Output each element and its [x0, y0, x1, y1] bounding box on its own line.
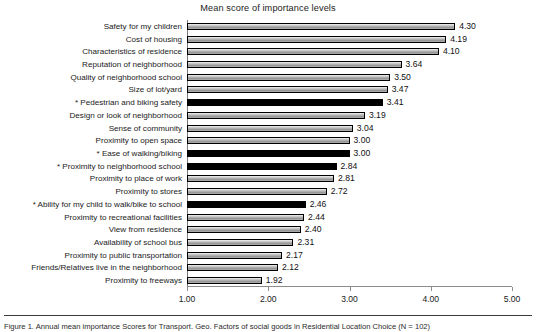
bar-value-label: 2.46: [310, 200, 327, 209]
bar-value-label: 2.40: [305, 225, 322, 234]
bar: [187, 252, 282, 259]
bar-value-label: 3.41: [387, 98, 404, 107]
bar-value-label: 4.10: [443, 47, 460, 56]
x-axis-tick-label: 2.00: [260, 294, 277, 304]
category-label: Cost of housing: [0, 35, 184, 44]
x-axis-tick-mark: [431, 287, 432, 291]
bar: [187, 125, 353, 132]
category-label: Proximity to stores: [0, 187, 184, 196]
category-label: Sense of community: [0, 124, 184, 133]
category-label: Quality of neighborhood school: [0, 73, 184, 82]
bar-value-label: 2.84: [341, 162, 358, 171]
bar-value-label: 3.00: [354, 149, 371, 158]
bar-value-label: 3.19: [369, 111, 386, 120]
category-label: * Pedestrian and biking safety: [0, 98, 184, 107]
bar: [187, 264, 278, 271]
category-label: Proximity to public transportation: [0, 251, 184, 260]
x-axis-tick-label: 3.00: [341, 294, 358, 304]
bar-value-label: 4.30: [459, 22, 476, 31]
bar: [187, 36, 446, 43]
bar-value-label: 2.72: [331, 187, 348, 196]
x-axis-tick-label: 5.00: [504, 294, 521, 304]
category-label: Proximity to freeways: [0, 276, 184, 285]
category-label: Size of lot/yard: [0, 85, 184, 94]
x-axis-tick-mark: [512, 287, 513, 291]
category-label: Proximity to recreational facilities: [0, 213, 184, 222]
bar-value-label: 2.17: [286, 251, 303, 260]
bar-value-label: 3.00: [354, 136, 371, 145]
category-label: Characteristics of residence: [0, 47, 184, 56]
figure-caption: Figure 1. Annual mean importance Scores …: [4, 322, 532, 331]
bar: [187, 239, 293, 246]
category-label: Availability of school bus: [0, 238, 184, 247]
bar: [187, 23, 455, 30]
x-axis-tick-mark: [268, 287, 269, 291]
bar: [187, 214, 304, 221]
bar: [187, 74, 390, 81]
bar-value-label: 3.04: [357, 124, 374, 133]
x-axis-tick-label: 1.00: [179, 294, 196, 304]
category-label: * Ease of walking/biking: [0, 149, 184, 158]
chart-title: Mean score of importance levels: [0, 3, 536, 13]
x-axis-tick-label: 4.00: [422, 294, 439, 304]
bar-value-label: 2.81: [338, 174, 355, 183]
bar: [187, 48, 439, 55]
category-label: Proximity to open space: [0, 136, 184, 145]
category-label: Proximity to place of work: [0, 174, 184, 183]
category-label: Safety for my children: [0, 22, 184, 31]
bar: [187, 61, 402, 68]
bar: [187, 112, 365, 119]
category-axis-labels: Safety for my childrenCost of housingCha…: [0, 20, 184, 287]
bar: [187, 175, 334, 182]
bar: [187, 150, 350, 157]
bar: [187, 277, 262, 284]
category-label: Design or look of neighborhood: [0, 111, 184, 120]
category-label: * Proximity to neighborhood school: [0, 162, 184, 171]
category-label: View from residence: [0, 225, 184, 234]
bar-value-label: 2.31: [297, 238, 314, 247]
bar-value-label: 3.64: [406, 60, 423, 69]
bar: [187, 188, 327, 195]
category-label: Friends/Relatives live in the neighborho…: [0, 263, 184, 272]
bar-value-label: 3.50: [394, 73, 411, 82]
x-axis-tick-mark: [187, 287, 188, 291]
bar: [187, 86, 388, 93]
bar: [187, 137, 350, 144]
bar-value-label: 4.19: [450, 35, 467, 44]
bar: [187, 163, 337, 170]
bar-chart: Mean score of importance levels Safety f…: [0, 0, 536, 332]
category-label: Reputation of neighborhood: [0, 60, 184, 69]
bar-value-label: 2.44: [308, 213, 325, 222]
x-axis-tick-mark: [350, 287, 351, 291]
category-label: * Ability for my child to walk/bike to s…: [0, 200, 184, 209]
bar: [187, 201, 306, 208]
bar: [187, 226, 301, 233]
bar: [187, 99, 383, 106]
plot-area: 1.002.003.004.005.004.304.194.103.643.50…: [187, 20, 512, 287]
bar-value-label: 1.92: [266, 276, 283, 285]
bar-value-label: 3.47: [392, 85, 409, 94]
caption-divider: [4, 315, 532, 316]
bar-value-label: 2.12: [282, 263, 299, 272]
